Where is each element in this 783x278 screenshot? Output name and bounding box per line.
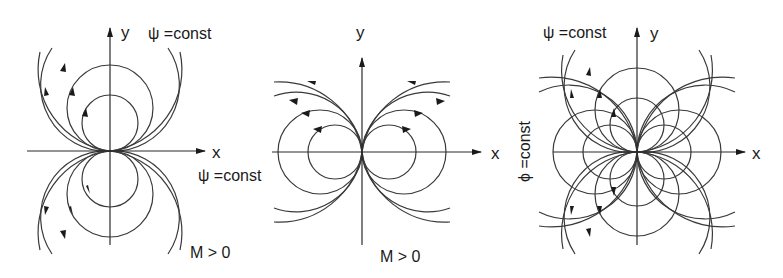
panel-combined-flownet: y ψ =const x ϕ =const: [516, 24, 761, 254]
y-axis-label: y: [356, 23, 365, 42]
panel-vertical-doublet: y ψ =const x M > 0: [27, 23, 231, 261]
psi-const-label: ψ =const: [198, 167, 262, 184]
psi-const-label: ψ =const: [543, 24, 607, 41]
panel-horizontal-doublet: y x ψ =const M > 0: [198, 23, 500, 265]
psi-const-label: ψ =const: [148, 25, 212, 42]
phi-const-label: ϕ =const: [516, 120, 533, 182]
y-axis-label: y: [121, 23, 130, 42]
x-axis-label: x: [752, 144, 761, 163]
condition-label: M > 0: [380, 248, 421, 265]
doublet-flow-diagram: y ψ =const x M > 0 y x ψ: [0, 0, 783, 278]
y-axis-label: y: [650, 24, 659, 43]
condition-label: M > 0: [190, 244, 231, 261]
x-axis-label: x: [212, 143, 221, 162]
x-axis-label: x: [491, 144, 500, 163]
